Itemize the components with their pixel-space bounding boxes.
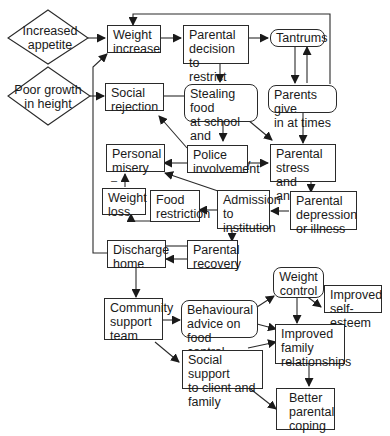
node-community-support: Community support team — [104, 298, 163, 340]
node-parental-decision: Parental decision to restrict food — [183, 25, 249, 64]
node-food-restriction: Food restriction — [150, 190, 200, 222]
node-discharge-home: Discharge home — [107, 240, 166, 268]
node-personal-misery: Personal misery — [106, 144, 165, 172]
node-better-coping: Better parental coping — [276, 388, 335, 430]
cause-poor-growth: Poor growth in height — [12, 83, 84, 111]
node-parental-stress: Parental stress and anxiety — [270, 144, 336, 182]
node-improved-family: Improved family relationships — [275, 324, 345, 364]
node-police-involvement: Police involvement — [187, 145, 248, 173]
node-parental-recovery: Parental recovery — [187, 240, 238, 269]
node-parental-depression: Parental depression or illness — [290, 191, 357, 230]
node-weight-loss: Weight loss — [102, 188, 146, 215]
cause-increased-appetite: Increased appetite — [22, 24, 78, 52]
node-social-support: Social support to client and family — [182, 350, 263, 389]
node-improved-self-esteem: Improved self-esteem — [324, 285, 382, 313]
flowchart: Increased appetite Poor growth in height… — [0, 0, 390, 436]
minus-mark: – — [111, 174, 117, 186]
node-weight-increase: Weight increase — [107, 25, 161, 53]
node-tantrums: Tantrums — [270, 29, 325, 47]
node-admission: Admission to institution — [217, 190, 270, 229]
node-stealing-food: Stealing food at school and in community — [184, 84, 258, 122]
node-parents-give-in: Parents give in at times — [268, 85, 337, 113]
node-social-rejection: Social rejection — [105, 83, 164, 111]
node-behavioural-advice: Behavioural advice on food control — [181, 300, 258, 338]
node-weight-control: Weight control — [273, 267, 324, 298]
